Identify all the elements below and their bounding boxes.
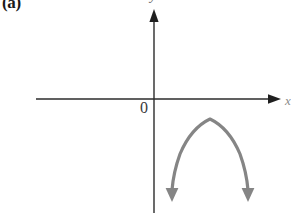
- x-axis-label: x: [285, 94, 291, 107]
- parabola-curve: [172, 119, 248, 190]
- parabola-left-arrowhead-icon: [166, 188, 179, 202]
- x-axis-arrowhead-icon: [268, 94, 281, 104]
- y-axis-label: y: [150, 0, 156, 3]
- origin-label: 0: [140, 100, 148, 116]
- figure-container: (a) y x 0: [0, 0, 291, 213]
- y-axis-arrowhead-icon: [149, 9, 158, 22]
- parabola-right-arrowhead-icon: [242, 188, 255, 202]
